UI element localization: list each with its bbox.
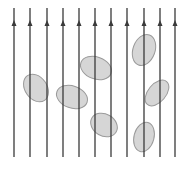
arrow-up-icon	[61, 20, 66, 26]
arrow-up-icon	[12, 20, 17, 26]
ellipse-6	[140, 76, 173, 111]
arrow-up-icon	[125, 20, 130, 26]
arrow-up-icon	[28, 20, 33, 26]
arrow-up-icon	[142, 20, 147, 26]
ellipse-1	[18, 69, 53, 106]
arrow-up-icon	[173, 20, 178, 26]
arrow-up-icon	[77, 20, 82, 26]
arrow-up-icon	[158, 20, 163, 26]
arrow-up-icon	[93, 20, 98, 26]
ellipse-2	[53, 81, 91, 113]
ellipse-3	[77, 52, 115, 84]
ellipse-group	[18, 31, 173, 154]
arrow-up-icon	[45, 20, 50, 26]
field-lines-diagram	[0, 0, 189, 169]
ellipse-4	[86, 108, 121, 141]
arrow-up-icon	[109, 20, 114, 26]
